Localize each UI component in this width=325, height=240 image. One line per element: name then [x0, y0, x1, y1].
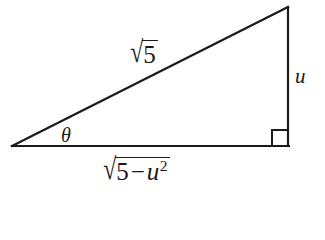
radicand-value: 5	[143, 41, 156, 68]
radicand-adjacent: 5−u2	[115, 157, 169, 184]
label-adjacent-side: √5−u2	[103, 157, 170, 184]
label-angle-theta: θ	[61, 125, 71, 145]
radicand-hypotenuse: 5	[142, 40, 158, 67]
radical-expression-hypotenuse: √5	[130, 40, 158, 67]
radicand-operator: −	[129, 158, 147, 185]
label-opposite-side: u	[295, 66, 306, 87]
radicand-exponent: 2	[160, 157, 168, 174]
radicand-variable: u	[147, 158, 160, 185]
label-hypotenuse: √5	[130, 40, 158, 67]
radicand-base: 5	[116, 158, 129, 185]
radical-expression-adjacent: √5−u2	[103, 157, 170, 184]
